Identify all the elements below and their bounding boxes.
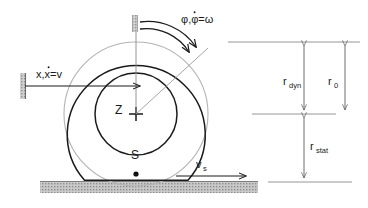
- phi-symbol: φ,: [181, 13, 191, 25]
- svg-text:φ,φ=ω: φ,φ=ω: [181, 13, 214, 25]
- center-label-z: Z: [115, 103, 122, 117]
- vs-subscript: s: [203, 164, 207, 173]
- translation-label: x,x=v: [36, 66, 62, 80]
- dimension-reference-lines: [228, 42, 360, 182]
- dimension-r-0: r 0: [328, 46, 345, 110]
- contact-point-dot: [133, 171, 138, 176]
- rotation-equals: =ω: [198, 13, 213, 25]
- translation-equals: =v: [50, 68, 62, 80]
- rotated-spoke: [136, 48, 208, 114]
- left-fixture-wall: [20, 73, 26, 99]
- dimension-r-dyn: r dyn: [283, 46, 304, 110]
- vs-base: v: [196, 158, 202, 170]
- contact-label-s: S: [131, 148, 139, 162]
- diagram-canvas: φ,φ=ω x,x=v Z S: [0, 0, 368, 208]
- rotation-angle-arc: [140, 21, 196, 52]
- r-0-base: r: [328, 75, 332, 87]
- slip-velocity-label: v s: [196, 158, 207, 173]
- x-dot-accent: [48, 66, 50, 68]
- r-dyn-base: r: [283, 75, 287, 87]
- r-stat-subscript: stat: [316, 146, 329, 155]
- phi-dot-accent: [194, 11, 196, 13]
- ground-surface: [40, 182, 258, 194]
- vertical-reference-spoke: [133, 15, 138, 114]
- r-stat-base: r: [310, 140, 314, 152]
- r-0-subscript: 0: [334, 81, 338, 90]
- technical-diagram: φ,φ=ω x,x=v Z S: [0, 0, 368, 208]
- rotation-label: φ,φ=ω: [181, 11, 214, 25]
- dimension-r-stat: r stat: [304, 118, 329, 178]
- svg-text:x,x=v: x,x=v: [36, 68, 62, 80]
- r-dyn-subscript: dyn: [289, 81, 301, 90]
- phi-dot-symbol: φ: [191, 13, 198, 25]
- x-symbol: x,: [36, 68, 45, 80]
